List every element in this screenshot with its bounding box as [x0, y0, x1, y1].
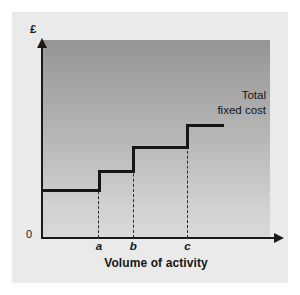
step-riser-2 [132, 146, 135, 173]
x-tick-label-b: b [123, 241, 143, 253]
y-axis-title: £ [30, 24, 36, 36]
step-tread-1 [42, 189, 99, 192]
step-riser-1 [98, 170, 101, 192]
plot-area-gradient [42, 40, 270, 238]
x-tick-label-a: a [89, 241, 109, 253]
series-annotation-line-2: fixed cost [180, 103, 266, 118]
series-annotation-line-1: Total [180, 88, 266, 103]
x-axis-title: Volume of activity [42, 256, 270, 270]
step-tread-4 [187, 124, 224, 127]
series-annotation-total-fixed-cost: Total fixed cost [180, 88, 266, 117]
step-riser-3 [186, 124, 189, 149]
x-tick-label-c: c [177, 241, 197, 253]
x-axis-arrowhead-icon [274, 233, 284, 243]
x-axis-line [42, 237, 276, 239]
chart-figure: £ 0 Volume of activity Total fixed cost … [0, 0, 300, 295]
step-tread-2 [99, 170, 133, 173]
origin-label: 0 [26, 229, 32, 240]
step-tread-3 [133, 146, 187, 149]
y-axis-arrowhead-icon [37, 38, 47, 48]
y-axis-line [41, 46, 43, 239]
